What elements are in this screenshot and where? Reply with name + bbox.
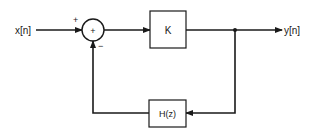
feedback-block-label: H(z) bbox=[159, 109, 176, 119]
input-label: x[n] bbox=[15, 25, 31, 36]
feedback-path-left bbox=[93, 41, 149, 113]
feedback-path-right bbox=[186, 30, 235, 113]
block-diagram: x[n] + + K y[n] H(z) − bbox=[0, 0, 317, 134]
plus-sign-label: + bbox=[73, 15, 78, 25]
feedback-block-hz: H(z) bbox=[149, 100, 186, 127]
minus-sign-label: − bbox=[98, 41, 103, 51]
summer-symbol: + bbox=[90, 26, 95, 36]
output-label: y[n] bbox=[284, 25, 300, 36]
summing-junction: + bbox=[82, 19, 104, 41]
gain-block-label: K bbox=[165, 25, 172, 36]
gain-block-k: K bbox=[150, 11, 186, 48]
